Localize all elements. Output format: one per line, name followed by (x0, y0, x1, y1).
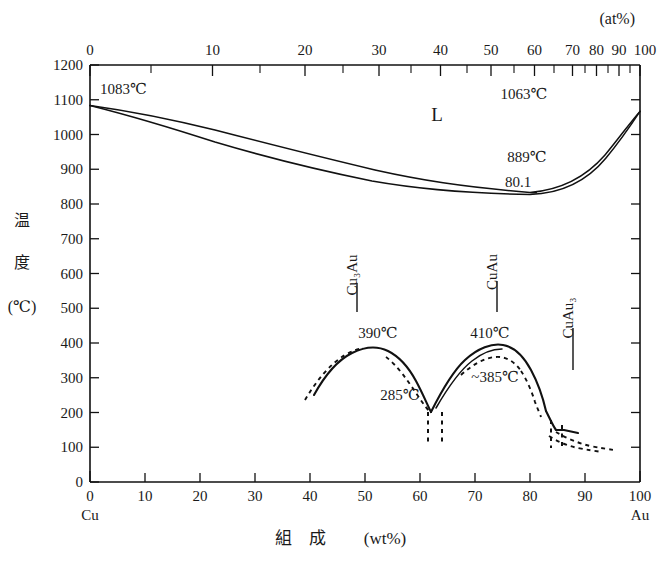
top-axis-minor-ticks (151, 65, 630, 73)
x-axis-title-text: 組 成 (275, 529, 326, 548)
y-axis-tick-labels: 1200 1100 1000 900 800 700 600 500 400 3… (53, 57, 83, 490)
x-tick-label: 70 (468, 488, 483, 504)
x-tick-label: 60 (413, 488, 428, 504)
cu-melting-point-label: 1083℃ (100, 81, 147, 97)
cu3au-temperature-label: 390℃ (358, 325, 397, 341)
x-tick-label: 100 (629, 488, 652, 504)
x-axis-title: 組 成 (wt%) (275, 529, 407, 548)
top-tick-label: 70 (565, 42, 580, 58)
cuau-temperature-label: 410℃ (470, 325, 509, 341)
top-tick-label: 40 (433, 42, 448, 58)
y-axis-unit-label: (℃) (8, 298, 37, 316)
x-tick-label: 40 (303, 488, 318, 504)
top-axis-major-ticks (90, 65, 640, 76)
minimum-temperature-label: 889℃ (507, 149, 546, 165)
y-tick-label: 1200 (53, 57, 83, 73)
top-tick-label: 90 (612, 42, 627, 58)
left-element-label: Cu (81, 507, 99, 523)
bottom-axis-tick-labels: 0 10 20 30 40 50 60 70 80 90 100 (86, 488, 651, 504)
y-tick-label: 1100 (54, 92, 83, 108)
x-tick-label: 80 (523, 488, 538, 504)
x-tick-label: 20 (193, 488, 208, 504)
top-tick-label: 0 (86, 42, 94, 58)
cuau3-solvus-dashed (556, 432, 614, 450)
solidus-curve (90, 105, 640, 194)
top-tick-label: 50 (484, 42, 499, 58)
y-tick-label: 700 (61, 231, 84, 247)
x-tick-label: 0 (86, 488, 94, 504)
y-tick-label: 300 (61, 370, 84, 386)
cuau3-lower-dashed (549, 436, 602, 452)
x-tick-label: 30 (248, 488, 263, 504)
y-axis-title: 温 度 (℃) (8, 212, 37, 316)
ordering-transformation-curves (305, 345, 614, 452)
liquidus-solidus-curves (90, 105, 640, 194)
eutectoid-285-label: 285℃ (380, 387, 419, 403)
right-element-label: Au (631, 507, 650, 523)
x-tick-label: 90 (578, 488, 593, 504)
top-axis-unit-label: (at%) (599, 10, 635, 28)
top-tick-label: 10 (205, 42, 220, 58)
x-tick-label: 10 (138, 488, 153, 504)
y-axis-title-char-1: 温 (14, 212, 30, 229)
y-tick-label: 500 (61, 300, 84, 316)
y-tick-label: 1000 (53, 127, 83, 143)
top-tick-label: 20 (298, 42, 313, 58)
minimum-composition-label: 80.1 (505, 174, 531, 190)
y-tick-label: 100 (61, 439, 84, 455)
phase-diagram-figure: 1200 1100 1000 900 800 700 600 500 400 3… (0, 0, 671, 570)
y-tick-label: 800 (61, 196, 84, 212)
top-tick-label: 100 (634, 42, 657, 58)
y-tick-label: 400 (61, 335, 84, 351)
cu3au-right-solvus-dashed (386, 357, 431, 413)
plot-frame (90, 65, 640, 482)
cuau3-phase-annotation: CuAu₃ (560, 297, 576, 370)
x-tick-label: 50 (358, 488, 373, 504)
top-tick-label: 80 (589, 42, 604, 58)
cu3au-phase-annotation: Cu₃Au (344, 254, 360, 312)
y-axis-title-char-2: 度 (14, 254, 30, 271)
x-axis-unit-label: (wt%) (364, 529, 406, 548)
approx-385-label: ~385℃ (471, 369, 518, 385)
cuau-phase-annotation: CuAu (484, 254, 500, 312)
y-tick-label: 200 (61, 405, 84, 421)
phase-diagram-svg: 1200 1100 1000 900 800 700 600 500 400 3… (0, 0, 671, 570)
au-melting-point-label: 1063℃ (501, 86, 548, 102)
bottom-axis-ticks (90, 471, 640, 482)
top-tick-label: 60 (527, 42, 542, 58)
top-axis-tick-labels: 0 10 20 30 40 50 60 70 80 90 100 (86, 42, 656, 58)
y-tick-label: 900 (61, 161, 84, 177)
liquid-region-label: L (431, 104, 443, 125)
top-tick-label: 30 (372, 42, 387, 58)
y-tick-label: 0 (76, 474, 84, 490)
right-axis-ticks (631, 100, 640, 448)
y-axis-ticks (90, 65, 99, 482)
cu3au-left-solvus-dashed (305, 348, 363, 400)
y-tick-label: 600 (61, 266, 84, 282)
cuau2-right-dotted (521, 371, 541, 417)
